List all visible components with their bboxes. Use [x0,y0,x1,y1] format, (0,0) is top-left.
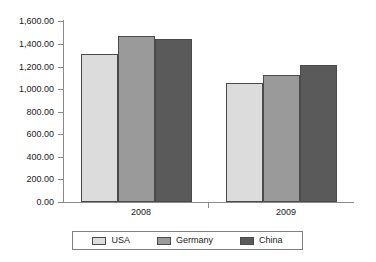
legend-item-usa: USA [92,236,130,245]
bar-usa-2008 [81,54,118,202]
bar-china-2008 [155,39,192,202]
bar-usa-2009 [226,83,263,202]
bar-germany-2009 [263,75,300,202]
plot-area [63,20,353,202]
y-axis-label: 1,200.00 [19,63,54,72]
y-axis-label: 200.00 [26,175,54,184]
legend-label-germany: Germany [176,236,213,245]
legend-swatch-icon [240,237,254,245]
legend-swatch-icon [157,237,171,245]
legend-item-china: China [240,236,283,245]
y-axis-label: 1,400.00 [19,40,54,49]
bar-chart: 1,600.00 1,400.00 1,200.00 1,000.00 800.… [0,0,376,262]
x-axis-group-separator-tick [208,203,209,208]
x-axis-category-2008: 2008 [111,207,171,217]
legend-item-germany: Germany [157,236,213,245]
y-axis-label: 600.00 [26,130,54,139]
bar-china-2009 [300,65,337,202]
y-axis-label: 1,600.00 [19,17,54,26]
legend-swatch-icon [92,237,106,245]
bar-group-2009 [226,20,346,202]
legend-label-china: China [259,236,283,245]
legend-label-usa: USA [111,236,130,245]
bar-group-2008 [81,20,201,202]
chart-legend: USA Germany China [72,231,303,250]
y-axis-label: 1,000.00 [19,85,54,94]
y-axis-label: 400.00 [26,153,54,162]
bar-germany-2008 [118,36,155,202]
x-axis-category-2009: 2009 [256,207,316,217]
y-axis-label: 0.00 [36,198,54,207]
y-axis-label: 800.00 [26,108,54,117]
